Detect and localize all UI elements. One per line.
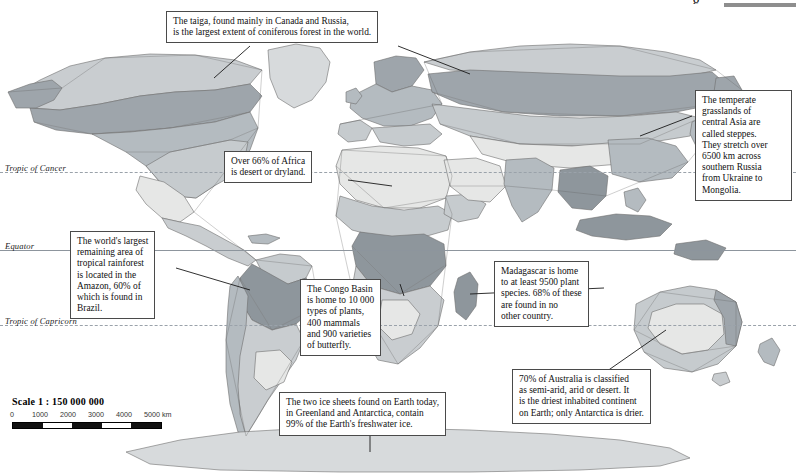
callout-madagascar-line-1: Madagascar is home [501,266,582,277]
callout-steppes-line-4: called steppes. [702,129,785,140]
scale-tick-labels: 0 1000 2000 3000 4000 5000 km [12,410,172,421]
callout-ice-sheets: The two ice sheets found on Earth today,… [279,392,446,436]
scale-tick-3000: 3000 [88,410,104,419]
callout-ice-sheets-line-2: in Greenland and Antarctica, contain [286,408,439,419]
callout-steppes-line-7: southern Russia [702,162,785,173]
callout-australia-line-4: on Earth; only Antarctica is drier. [519,408,644,419]
callout-steppes-line-3: central Asia are [702,117,785,128]
callout-australia-line-2: as semi-arid, arid or desert. It [519,385,644,396]
callout-madagascar-line-4: are found in no [501,300,582,311]
callout-amazon: The world's largest remaining area of tr… [70,231,155,319]
callout-madagascar-line-3: species. 68% of these [501,288,582,299]
callout-amazon-line-4: is located in the [77,270,148,281]
scale-title: Scale 1 : 150 000 000 [12,396,172,407]
callout-congo-basin-line-1: The Congo Basin [307,284,374,295]
leader-amazon [176,268,250,290]
scale-bar [12,422,162,429]
callout-amazon-line-1: The world's largest [77,236,148,247]
callout-africa-desert: Over 66% of Africa is desert or dryland. [224,151,312,183]
callout-steppes: The temperate grasslands of central Asia… [695,90,792,201]
callout-taiga: The taiga, found mainly in Canada and Ru… [166,11,378,43]
callout-madagascar-line-5: other country. [501,311,582,322]
world-biomes-map-page: Tropic of Cancer Equator Tropic of Capri… [0,0,796,474]
callout-ice-sheets-line-1: The two ice sheets found on Earth today, [286,397,439,408]
leader-taiga-left [214,46,250,78]
scale-tick-4000: 4000 [116,410,132,419]
scale-tick-2000: 2000 [60,410,76,419]
callout-madagascar-line-2: to at least 9500 plant [501,277,582,288]
scale-bar-segment-3 [72,423,102,428]
scale-bar-segment-5 [131,423,161,428]
callout-steppes-line-1: The temperate [702,95,785,106]
callout-steppes-line-5: They stretch over [702,140,785,151]
callout-amazon-line-3: tropical rainforest [77,258,148,269]
callout-congo-basin-line-2: is home to 10 000 [307,295,374,306]
callout-australia-line-1: 70% of Australia is classified [519,374,644,385]
callout-australia: 70% of Australia is classified as semi-a… [512,369,651,424]
callout-steppes-line-8: from Ukraine to [702,173,785,184]
leader-africa-desert [348,180,392,186]
cropped-title-fragment: g [693,0,701,4]
callout-congo-basin-line-4: 400 mammals [307,318,374,329]
callout-congo-basin-line-5: and 900 varieties [307,329,374,340]
callout-amazon-line-5: Amazon, 60% of [77,281,148,292]
callout-taiga-line-1: The taiga, found mainly in Canada and Ru… [173,16,371,27]
scale-tick-5000: 5000 km [144,410,172,419]
callout-steppes-line-6: 6500 km across [702,151,785,162]
map-scale: Scale 1 : 150 000 000 0 1000 2000 3000 4… [12,396,172,429]
callout-ice-sheets-line-3: 99% of the Earth's freshwater ice. [286,419,439,430]
leader-taiga-right [398,46,470,74]
callout-madagascar: Madagascar is home to at least 9500 plan… [494,261,589,327]
callout-steppes-line-2: grasslands of [702,106,785,117]
scale-tick-0: 0 [10,410,14,419]
callout-africa-desert-line-1: Over 66% of Africa [231,156,305,167]
scale-bar-segment-2 [43,423,73,428]
scale-bar-segment-4 [102,423,132,428]
callout-taiga-line-2: is the largest extent of coniferous fore… [173,27,371,38]
scale-tick-1000: 1000 [32,410,48,419]
callout-amazon-line-6: which is found in [77,292,148,303]
callout-amazon-line-2: remaining area of [77,247,148,258]
scale-bar-segment-1 [13,423,43,428]
leader-steppes [640,116,692,136]
callout-congo-basin-line-3: types of plants, [307,306,374,317]
header-rule [724,3,796,7]
callout-steppes-line-9: Mongolia. [702,185,785,196]
callout-africa-desert-line-2: is desert or dryland. [231,167,305,178]
callout-congo-basin-line-6: of butterfly. [307,340,374,351]
callout-amazon-line-7: Brazil. [77,303,148,314]
leader-congo [400,284,404,296]
callout-australia-line-3: is the driest inhabited continent [519,396,644,407]
callout-congo-basin: The Congo Basin is home to 10 000 types … [300,279,381,356]
